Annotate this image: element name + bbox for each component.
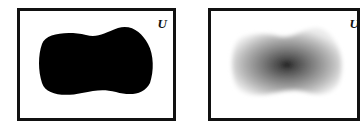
fuzzy-set-blob [211, 11, 357, 118]
crisp-set-blob [20, 11, 173, 118]
universe-label: U [350, 16, 359, 32]
crisp-set-panel: U [17, 8, 176, 121]
universe-label: U [158, 16, 167, 32]
fuzzy-set-panel: U [208, 8, 360, 121]
